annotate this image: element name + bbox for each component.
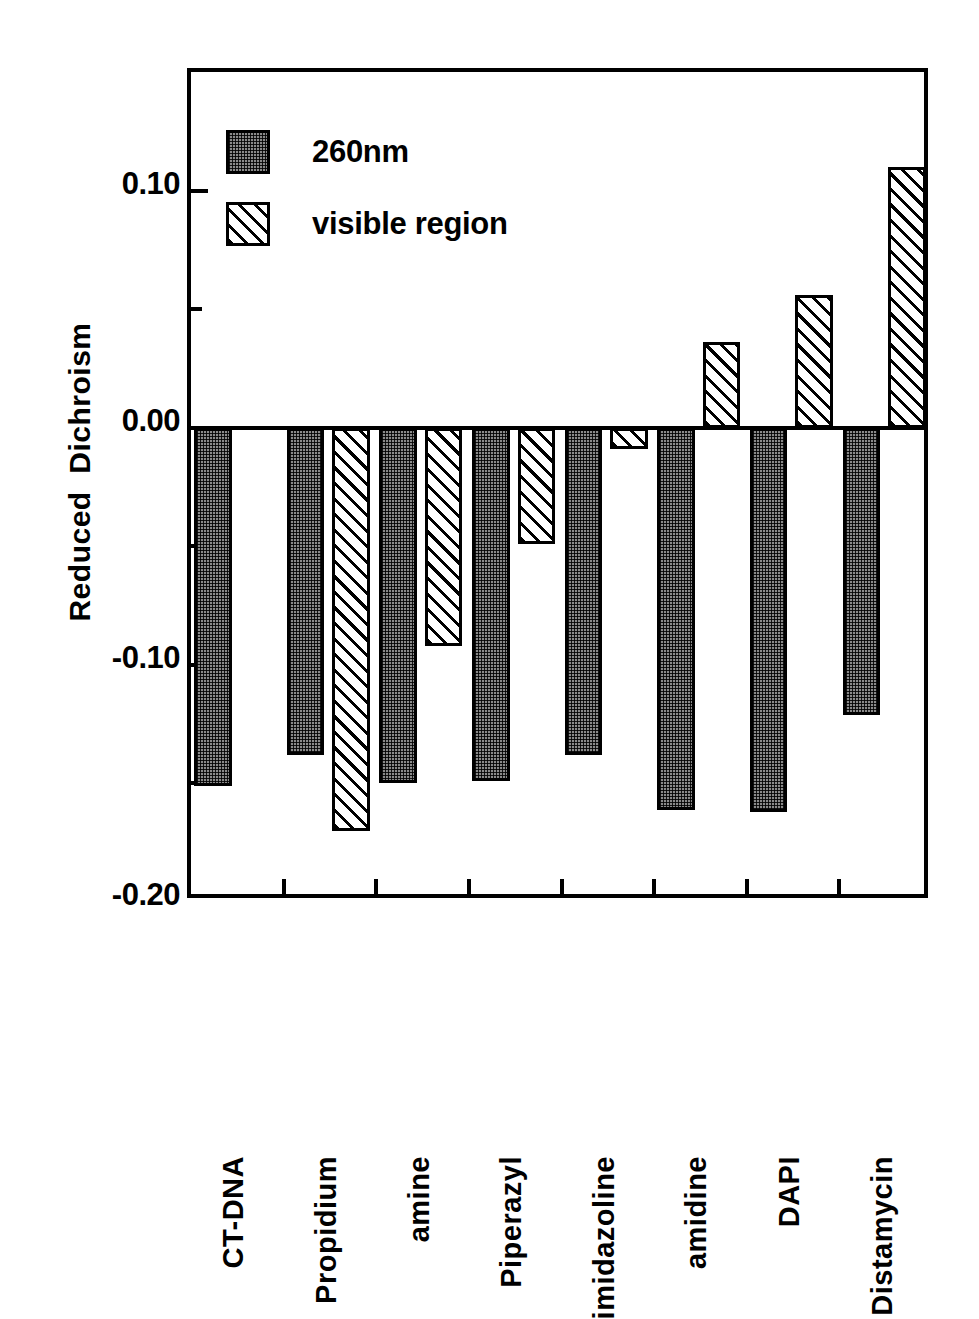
x-tick-label-text: DAPI: [775, 1156, 804, 1227]
x-tick-label-dapi: DAPI: [743, 898, 836, 1158]
legend-label: 260nm: [312, 134, 409, 170]
bar: [472, 428, 510, 781]
y-tick-label: 0.00: [50, 403, 180, 439]
bar: [332, 428, 370, 831]
legend-swatch-icon: [226, 202, 270, 246]
bar: [610, 428, 648, 449]
legend-label: visible region: [312, 206, 508, 242]
chart-legend: 260nmvisible region: [226, 116, 646, 260]
y-tick-label: -0.10: [50, 640, 180, 676]
x-tick-label-text: imidazoline: [589, 1156, 618, 1319]
x-tick: [745, 879, 749, 894]
bar: [657, 428, 695, 810]
x-tick: [374, 879, 378, 894]
x-tick-label-text: Propidium: [311, 1156, 340, 1304]
bar: [379, 428, 417, 784]
bar: [425, 428, 463, 646]
bar: [194, 428, 232, 786]
x-tick-label-text: Distamycin: [867, 1156, 896, 1316]
x-tick-label-amidine: amidine: [650, 898, 743, 1158]
x-tick-label-ct-dna: CT-DNA: [187, 898, 280, 1158]
legend-item-2[interactable]: visible region: [226, 188, 646, 260]
bar: [843, 428, 881, 715]
x-tick-label-piperazyl: Piperazyl: [465, 898, 558, 1158]
x-tick: [560, 879, 564, 894]
x-axis-tick-labels: CT-DNAPropidiumaminePiperazylimidazoline…: [187, 898, 928, 1168]
bar: [287, 428, 325, 755]
bar: [518, 428, 556, 544]
bar: [750, 428, 788, 812]
x-tick: [837, 879, 841, 894]
x-tick-label-text: CT-DNA: [219, 1156, 248, 1269]
x-tick-label-amine: amine: [372, 898, 465, 1158]
y-tick-major: [191, 189, 208, 193]
x-tick-label-text: amine: [404, 1156, 433, 1242]
bar: [703, 342, 741, 427]
plot-area: 260nmvisible region: [187, 68, 928, 898]
x-tick: [467, 879, 471, 894]
y-axis-tick-labels: 0.100.00-0.10-0.20: [30, 0, 180, 1168]
x-tick-label-propidium: Propidium: [280, 898, 373, 1158]
y-tick-minor: [191, 307, 202, 311]
bar: [565, 428, 603, 755]
x-tick-label-text: Piperazyl: [497, 1156, 526, 1288]
legend-item-1[interactable]: 260nm: [226, 116, 646, 188]
x-tick: [282, 879, 286, 894]
y-tick-label: -0.20: [50, 877, 180, 913]
x-tick-label-imidazoline: imidazoline: [558, 898, 651, 1158]
legend-swatch-icon: [226, 130, 270, 174]
y-tick-label: 0.10: [50, 166, 180, 202]
bar: [888, 167, 924, 428]
x-tick-label-distamycin: Distamycin: [835, 898, 928, 1158]
bar: [795, 295, 833, 428]
x-tick-label-text: amidine: [682, 1156, 711, 1269]
x-tick: [652, 879, 656, 894]
